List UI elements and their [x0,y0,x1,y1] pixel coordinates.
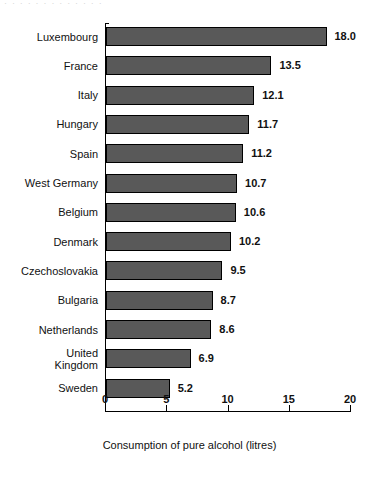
category-label: Bulgaria [2,294,98,306]
bar-value-label: 18.0 [335,29,356,44]
bar[interactable] [106,115,249,134]
bar-value-label: 10.7 [245,176,266,191]
bar[interactable] [106,261,222,280]
bar-row[interactable]: 13.5 [106,56,351,75]
bar-row[interactable]: 10.7 [106,174,351,193]
bar-value-label: 9.5 [230,263,245,278]
bar-row[interactable]: 18.0 [106,27,351,46]
x-tick-label: 20 [335,393,365,406]
category-label: Czechoslovakia [2,265,98,277]
bar-row[interactable]: 12.1 [106,86,351,105]
bar[interactable] [106,56,271,75]
bar-value-label: 11.2 [251,146,272,161]
x-axis-title: Consumption of pure alcohol (litres) [0,438,379,452]
bar-row[interactable]: 6.9 [106,349,351,368]
bar-row[interactable]: 11.7 [106,115,351,134]
bar-value-label: 8.6 [219,322,234,337]
bar-row[interactable]: 8.7 [106,291,351,310]
x-tick-label: 10 [213,393,243,406]
bar-value-label: 13.5 [279,58,300,73]
category-label: Italy [2,89,98,101]
bar-value-label: 10.2 [239,234,260,249]
bar[interactable] [106,86,254,105]
category-label: West Germany [2,177,98,189]
bar[interactable] [106,144,243,163]
bar[interactable] [106,174,237,193]
bar-series: 18.013.512.111.711.210.710.610.29.58.78.… [106,23,351,412]
bar-row[interactable]: 11.2 [106,144,351,163]
bar-row[interactable]: 10.6 [106,203,351,222]
bar-row[interactable]: 10.2 [106,232,351,251]
bar[interactable] [106,291,213,310]
category-label: Hungary [2,118,98,130]
category-label: Belgium [2,206,98,218]
category-label: United Kingdom [2,347,98,371]
category-label: Denmark [2,236,98,248]
category-label: Netherlands [2,324,98,336]
bar[interactable] [106,349,191,368]
bar-row[interactable]: 9.5 [106,261,351,280]
bar-value-label: 12.1 [262,88,283,103]
bar-chart: 18.013.512.111.711.210.710.610.29.58.78.… [0,0,379,478]
bar-value-label: 11.7 [257,117,278,132]
category-label: France [2,60,98,72]
x-tick-label: 5 [151,393,181,406]
bar[interactable] [106,203,236,222]
bar-row[interactable]: 8.6 [106,320,351,339]
plot-area: 18.013.512.111.711.210.710.610.29.58.78.… [105,23,350,412]
category-label: Spain [2,148,98,160]
x-tick-label: 15 [274,393,304,406]
bar-value-label: 10.6 [244,205,265,220]
category-label: Sweden [2,382,98,394]
bar-value-label: 8.7 [221,293,236,308]
category-label: Luxembourg [2,31,98,43]
bar-value-label: 6.9 [199,351,214,366]
x-tick-label: 0 [90,393,120,406]
bar[interactable] [106,27,327,46]
bar[interactable] [106,232,231,251]
bar[interactable] [106,320,211,339]
